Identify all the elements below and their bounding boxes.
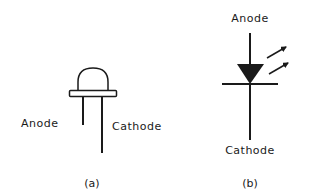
light-emission-arrow-icon bbox=[267, 47, 286, 58]
figure-a-anode-label: Anode bbox=[21, 117, 58, 130]
figure-b-cathode-label: Cathode bbox=[225, 144, 275, 157]
light-emission-arrow-icon bbox=[269, 63, 288, 74]
figure-b-anode-label: Anode bbox=[231, 12, 268, 25]
figure-a-cathode-label: Cathode bbox=[112, 120, 162, 133]
diode-triangle bbox=[237, 64, 264, 84]
led-symbol bbox=[222, 33, 288, 140]
led-flange bbox=[70, 91, 117, 97]
led-diagram: Anode Cathode (a) Anode Cathode (b) bbox=[0, 0, 313, 192]
led-package bbox=[70, 68, 117, 153]
figure-b-caption: (b) bbox=[242, 177, 258, 190]
led-dome bbox=[78, 68, 108, 90]
figure-a-caption: (a) bbox=[84, 177, 99, 190]
